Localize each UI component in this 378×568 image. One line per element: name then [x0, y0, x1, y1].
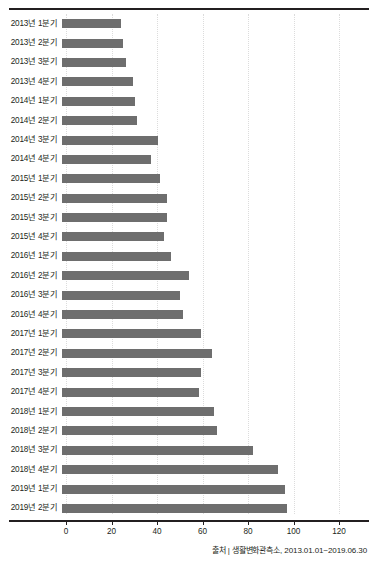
x-tick-label: 60: [198, 527, 207, 537]
category-label: 2016년 1분기: [0, 251, 62, 261]
bar: [62, 291, 180, 300]
category-label: 2013년 3분기: [0, 57, 62, 67]
bar-row: 2017년 1분기: [0, 324, 378, 343]
x-axis-line: [9, 520, 369, 522]
category-label: 2016년 2분기: [0, 271, 62, 281]
x-tick-20: [112, 520, 113, 525]
bar: [62, 465, 278, 474]
category-label: 2015년 2분기: [0, 193, 62, 203]
bar-row: 2016년 1분기: [0, 247, 378, 266]
bar: [62, 174, 160, 183]
bar: [62, 504, 287, 513]
bar: [62, 329, 201, 338]
bar: [62, 310, 183, 319]
category-label: 2019년 1분기: [0, 484, 62, 494]
bar-row: 2018년 4분기: [0, 460, 378, 479]
bar: [62, 426, 217, 435]
bar: [62, 155, 151, 164]
bar-row: 2013년 1분기: [0, 14, 378, 33]
x-tick-80: [248, 520, 249, 525]
bar-track: [62, 130, 378, 149]
bar-row: 2015년 3분기: [0, 208, 378, 227]
bar: [62, 252, 171, 261]
x-tick-label: 20: [107, 527, 116, 537]
category-label: 2014년 3분기: [0, 135, 62, 145]
bar-row: 2018년 1분기: [0, 402, 378, 421]
x-tick-label: 40: [152, 527, 161, 537]
bar-row: 2017년 4분기: [0, 382, 378, 401]
x-tick-label: 0: [64, 527, 69, 537]
category-label: 2017년 2분기: [0, 348, 62, 358]
bar-row: 2017년 2분기: [0, 344, 378, 363]
category-label: 2019년 2분기: [0, 503, 62, 513]
bar: [62, 213, 167, 222]
bar: [62, 136, 158, 145]
bar-track: [62, 33, 378, 52]
bar: [62, 116, 137, 125]
bar-row: 2015년 4분기: [0, 227, 378, 246]
bar-track: [62, 189, 378, 208]
category-label: 2015년 4분기: [0, 232, 62, 242]
bar-row: 2013년 3분기: [0, 53, 378, 72]
bar: [62, 194, 167, 203]
bar-track: [62, 305, 378, 324]
bar-chart-figure: 2013년 1분기2013년 2분기2013년 3분기2013년 4분기2014…: [0, 0, 378, 568]
bar-row: 2017년 3분기: [0, 363, 378, 382]
category-label: 2016년 3분기: [0, 290, 62, 300]
bar-rows: 2013년 1분기2013년 2분기2013년 3분기2013년 4분기2014…: [0, 14, 378, 518]
bar-row: 2016년 4분기: [0, 305, 378, 324]
category-label: 2014년 4분기: [0, 154, 62, 164]
bar: [62, 446, 253, 455]
bar-row: 2016년 2분기: [0, 266, 378, 285]
bar-row: 2014년 4분기: [0, 150, 378, 169]
bar: [62, 388, 199, 397]
category-label: 2015년 3분기: [0, 213, 62, 223]
bar: [62, 77, 133, 86]
bar-track: [62, 285, 378, 304]
bar: [62, 232, 164, 241]
bar-track: [62, 324, 378, 343]
bar-row: 2015년 2분기: [0, 189, 378, 208]
bar-row: 2013년 4분기: [0, 72, 378, 91]
x-tick-120: [339, 520, 340, 525]
bar-row: 2014년 2분기: [0, 111, 378, 130]
bar-row: 2019년 2분기: [0, 499, 378, 518]
category-label: 2017년 1분기: [0, 329, 62, 339]
category-label: 2016년 4분기: [0, 310, 62, 320]
bar: [62, 58, 126, 67]
bar-track: [62, 111, 378, 130]
x-tick-60: [203, 520, 204, 525]
bar: [62, 97, 135, 106]
bar-track: [62, 266, 378, 285]
bar-row: 2019년 1분기: [0, 479, 378, 498]
x-tick-100: [294, 520, 295, 525]
bar-row: 2014년 3분기: [0, 130, 378, 149]
bar: [62, 349, 212, 358]
bar: [62, 19, 121, 28]
category-label: 2015년 1분기: [0, 174, 62, 184]
bar-track: [62, 421, 378, 440]
bar-track: [62, 402, 378, 421]
category-label: 2017년 4분기: [0, 387, 62, 397]
bar-row: 2015년 1분기: [0, 169, 378, 188]
bar-track: [62, 460, 378, 479]
bar: [62, 407, 214, 416]
bar-track: [62, 227, 378, 246]
bar: [62, 39, 123, 48]
category-label: 2018년 2분기: [0, 426, 62, 436]
bar-track: [62, 150, 378, 169]
bar-track: [62, 72, 378, 91]
bar-track: [62, 14, 378, 33]
category-label: 2018년 3분기: [0, 445, 62, 455]
bar-track: [62, 53, 378, 72]
category-label: 2014년 2분기: [0, 116, 62, 126]
bar: [62, 271, 189, 280]
source-caption: 출처 | 생활변화관측소, 2013.01.01~2019.06.30: [212, 545, 367, 556]
bar-track: [62, 169, 378, 188]
bar-row: 2018년 3분기: [0, 441, 378, 460]
top-divider-rule: [9, 8, 369, 10]
category-label: 2018년 4분기: [0, 465, 62, 475]
category-label: 2017년 3분기: [0, 368, 62, 378]
bar: [62, 485, 285, 494]
bar-track: [62, 363, 378, 382]
